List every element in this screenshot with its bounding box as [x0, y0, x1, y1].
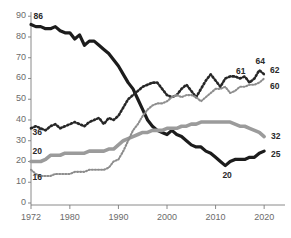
series-dark-solid — [31, 25, 264, 166]
chart-container: 0102030405060708090197219801990200020102… — [0, 0, 291, 238]
y-tick-label: 20 — [2, 155, 26, 165]
y-tick-label: 0 — [2, 197, 26, 207]
y-tick-label: 40 — [2, 114, 26, 124]
x-tick-label: 1990 — [101, 212, 135, 222]
y-tick-label: 10 — [2, 176, 26, 186]
data-point-label: 60 — [270, 81, 279, 91]
data-point-label: 25 — [271, 149, 280, 159]
y-tick-label: 90 — [2, 10, 26, 20]
y-tick-label: 60 — [2, 72, 26, 82]
x-tick-label: 2020 — [247, 212, 281, 222]
y-tick-label: 70 — [2, 52, 26, 62]
data-point-label: 20 — [32, 146, 41, 156]
y-tick-label: 80 — [2, 31, 26, 41]
x-tick-label: 1972 — [14, 212, 48, 222]
x-tick-label: 2000 — [150, 212, 184, 222]
data-point-label: 32 — [271, 131, 280, 141]
data-point-label: 86 — [33, 11, 42, 21]
data-point-label: 62 — [270, 65, 279, 75]
data-point-label: 36 — [32, 127, 41, 137]
series-gray-solid — [31, 122, 264, 161]
data-point-label: 16 — [32, 172, 41, 182]
data-point-label: 64 — [255, 56, 264, 66]
y-tick-label: 50 — [2, 93, 26, 103]
data-point-label: 61 — [236, 66, 245, 76]
x-tick-label: 1980 — [53, 212, 87, 222]
chart-plot-area — [0, 0, 291, 238]
data-point-label: 20 — [222, 170, 231, 180]
x-tick-label: 2010 — [199, 212, 233, 222]
y-tick-label: 30 — [2, 135, 26, 145]
